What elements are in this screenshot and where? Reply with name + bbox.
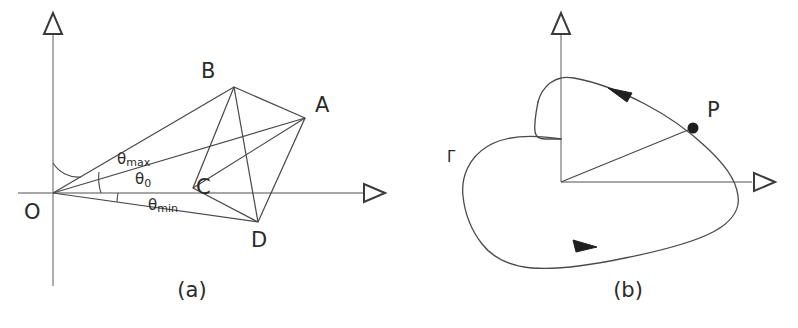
right-triangle-arrowhead-icon bbox=[754, 173, 775, 191]
curve-label-gamma: Γ bbox=[447, 148, 456, 166]
right-solid-arrowhead-icon bbox=[573, 240, 597, 252]
theta-zero-symbol: θ bbox=[135, 170, 144, 188]
vertex-label-b: B bbox=[201, 59, 215, 83]
right-triangle-arrowhead-icon bbox=[364, 184, 385, 202]
theta-zero-subscript: 0 bbox=[144, 177, 151, 190]
vertex-label-a: A bbox=[315, 93, 330, 117]
theta-max-label: θmax bbox=[117, 150, 151, 169]
angle-arc-theta-min bbox=[117, 193, 118, 202]
up-triangle-arrowhead-icon bbox=[44, 13, 62, 34]
closed-curve-gamma-closure bbox=[535, 102, 561, 139]
theta-max-symbol: θ bbox=[117, 150, 126, 168]
vertex-label-c: C bbox=[196, 175, 211, 199]
point-label-p: P bbox=[707, 98, 720, 122]
origin-label-o: O bbox=[24, 200, 41, 224]
panel-b: Γ P (b) bbox=[447, 13, 775, 302]
up-triangle-arrowhead-icon bbox=[552, 13, 570, 34]
theta-zero-label: θ0 bbox=[135, 170, 151, 190]
theta-max-subscript: max bbox=[126, 156, 150, 169]
left-solid-arrowhead-icon bbox=[608, 88, 632, 102]
ray-o-to-a bbox=[53, 118, 305, 193]
diagonal-b-d bbox=[234, 87, 258, 222]
closed-curve-gamma bbox=[463, 77, 739, 268]
panel-b-caption: (b) bbox=[613, 278, 643, 302]
figure-svg: O A B C D θmax θ0 θmin (a) bbox=[0, 0, 798, 328]
quadrilateral-abcd bbox=[193, 87, 305, 222]
radius-vector-to-p bbox=[561, 128, 693, 182]
panel-a-caption: (a) bbox=[177, 278, 206, 302]
panel-a: O A B C D θmax θ0 θmin (a) bbox=[18, 13, 385, 302]
angle-arc-theta-max bbox=[53, 163, 81, 177]
theta-min-subscript: min bbox=[157, 202, 178, 215]
theta-min-symbol: θ bbox=[148, 196, 157, 214]
vertex-label-d: D bbox=[251, 228, 267, 252]
angle-arc-theta-zero bbox=[99, 172, 101, 193]
figure-container: O A B C D θmax θ0 θmin (a) bbox=[0, 0, 798, 328]
point-p-marker bbox=[688, 123, 699, 134]
theta-min-label: θmin bbox=[148, 196, 178, 215]
